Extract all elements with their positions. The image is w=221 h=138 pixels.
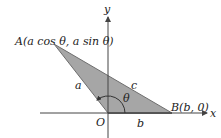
triangle-diagram: y x A(a cos θ, a sin θ) O B(b, 0) a c b … — [0, 0, 221, 138]
side-c-label: c — [131, 79, 137, 92]
x-axis-label: x — [210, 107, 217, 120]
side-b-label: b — [137, 117, 144, 130]
y-axis-label: y — [103, 3, 111, 16]
side-a-label: a — [75, 79, 82, 92]
triangle-OAB — [54, 44, 172, 113]
angle-theta-label: θ — [123, 92, 130, 105]
point-O-label: O — [96, 116, 105, 129]
point-A-label: A(a cos θ, a sin θ) — [14, 35, 114, 48]
point-B-label: B(b, 0) — [170, 101, 209, 114]
